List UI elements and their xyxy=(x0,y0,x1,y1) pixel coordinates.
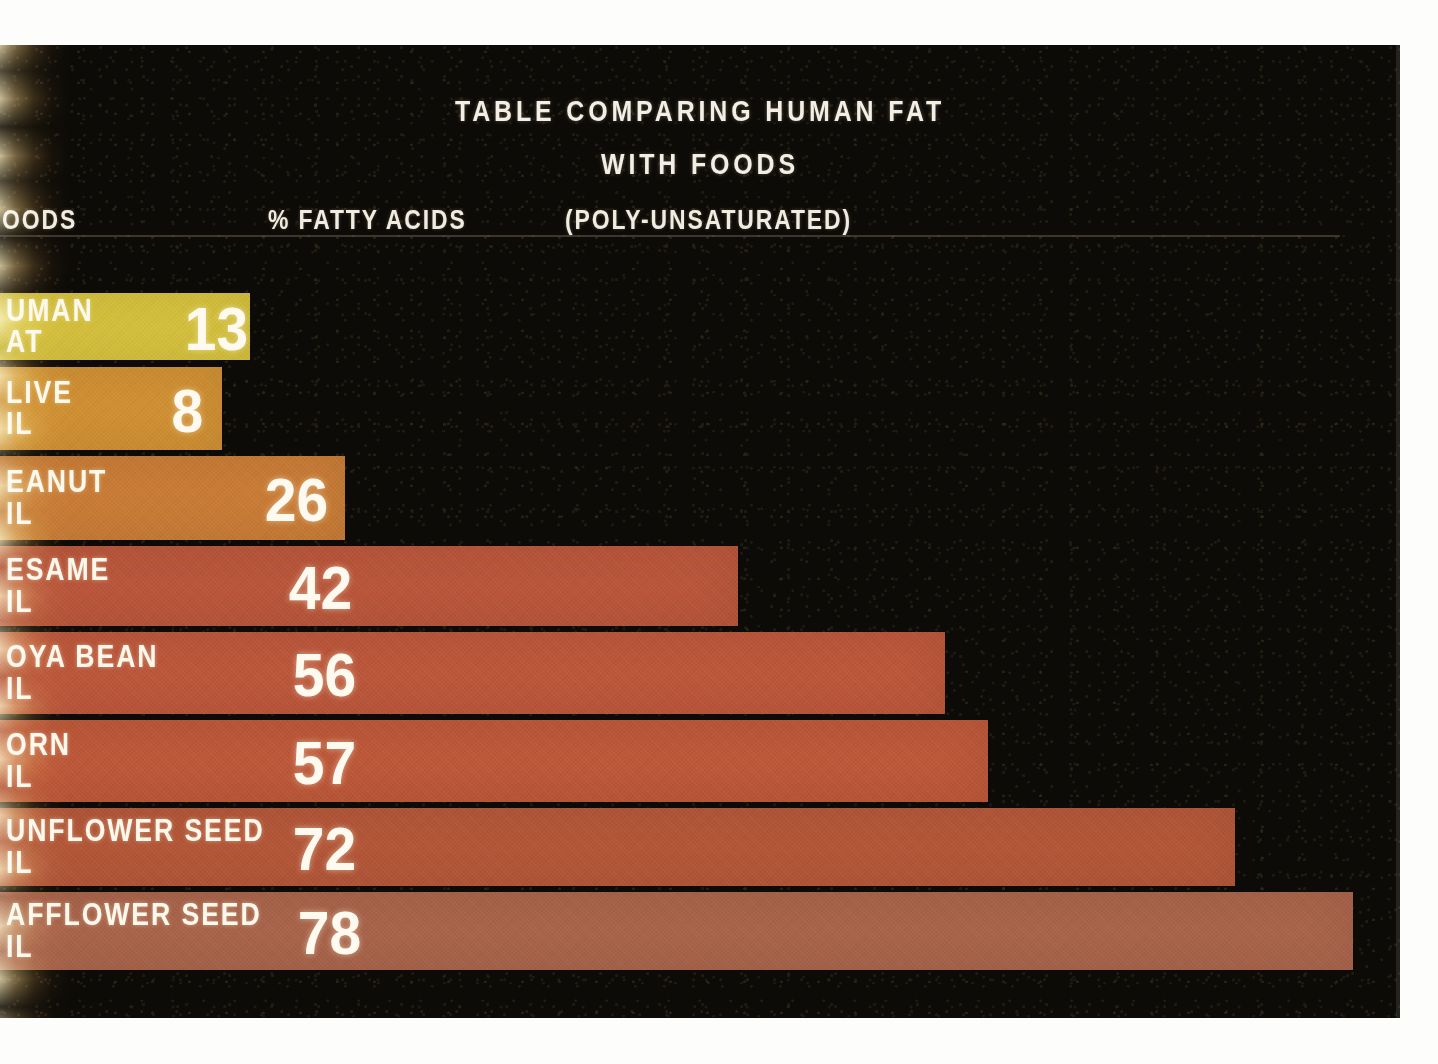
bar-row: ORN IL57 xyxy=(0,720,988,802)
slide-mount-right xyxy=(1400,0,1438,1064)
bar-category-label: EANUT IL xyxy=(6,466,107,529)
bar-value-label: 26 xyxy=(265,469,328,531)
column-header-percent-fatty-acids: % FATTY ACIDS xyxy=(268,205,467,236)
bar-row: OYA BEAN IL56 xyxy=(0,632,945,714)
bar-fill xyxy=(0,546,738,626)
bar-category-label: OYA BEAN IL xyxy=(6,641,158,704)
bar-value-label: 56 xyxy=(293,644,356,706)
chart-title-line-1: TABLE COMPARING HUMAN FAT xyxy=(98,95,1302,128)
chart-canvas: TABLE COMPARING HUMAN FAT WITH FOODS OOD… xyxy=(0,45,1400,1018)
bar-value-label: 78 xyxy=(298,902,361,964)
bar-category-label: ORN IL xyxy=(6,729,71,792)
bar-row: ESAME IL42 xyxy=(0,546,738,626)
bar-row: AFFLOWER SEED IL78 xyxy=(0,892,1353,970)
bar-row: UMAN AT13 xyxy=(0,293,250,360)
bar-row: LIVE IL8 xyxy=(0,367,222,450)
bar-fill xyxy=(0,720,988,802)
slide-mount-inner-edge xyxy=(1396,45,1400,1018)
bar-row: UNFLOWER SEED IL72 xyxy=(0,808,1235,886)
bar-category-label: UMAN AT xyxy=(6,295,94,358)
slide-frame: TABLE COMPARING HUMAN FAT WITH FOODS OOD… xyxy=(0,0,1438,1064)
bar-value-label: 8 xyxy=(171,380,203,442)
column-header-row: OODS % FATTY ACIDS (POLY-UNSATURATED) xyxy=(0,205,1400,245)
chart-title-line-2: WITH FOODS xyxy=(98,148,1302,181)
slide-mount-bottom xyxy=(0,1018,1438,1064)
bar-row: EANUT IL26 xyxy=(0,456,345,540)
column-header-poly-unsaturated: (POLY-UNSATURATED) xyxy=(565,205,852,236)
bar-value-label: 57 xyxy=(293,732,356,794)
bar-value-label: 13 xyxy=(185,298,248,360)
bar-value-label: 72 xyxy=(293,818,356,880)
bar-value-label: 42 xyxy=(289,557,352,619)
bar-category-label: AFFLOWER SEED IL xyxy=(6,899,262,962)
bar-category-label: LIVE IL xyxy=(6,377,73,440)
column-header-foods: OODS xyxy=(2,205,77,236)
slide-mount-top xyxy=(0,0,1438,45)
bar-category-label: ESAME IL xyxy=(6,554,110,617)
bar-category-label: UNFLOWER SEED IL xyxy=(6,815,265,878)
